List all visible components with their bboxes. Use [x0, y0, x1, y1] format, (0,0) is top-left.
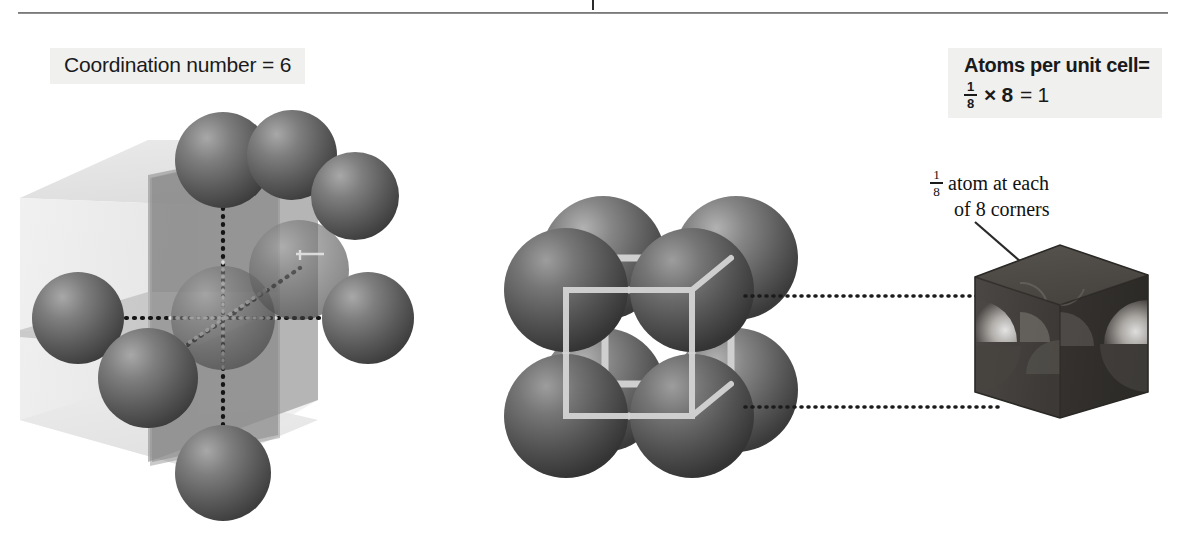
atoms-per-unit-cell-equation: 1 8 × 8 = 1 [964, 80, 1150, 110]
fraction-numerator: 1 [965, 80, 976, 94]
fraction-denominator: 8 [965, 96, 976, 110]
note-fraction-numerator: 1 [931, 168, 942, 182]
figure-canvas: Coordination number = 6 Atoms per unit c… [0, 0, 1184, 550]
atoms-per-unit-cell-label: Atoms per unit cell= 1 8 × 8 = 1 [948, 48, 1162, 118]
left-coordination-diagram [20, 110, 414, 521]
corner-note-text-line2: of 8 corners [954, 198, 1050, 221]
note-fraction-denominator: 8 [931, 184, 942, 198]
right-fraction-cube-diagram [975, 222, 1148, 418]
neighbour-atom-right [322, 272, 414, 364]
corner-note-row1: 1 8 atom at each [930, 168, 1050, 198]
corner-note-text-line1: atom at each [948, 172, 1049, 195]
lattice-atom-b [311, 152, 399, 240]
atoms-per-unit-cell-line1: Atoms per unit cell= [964, 54, 1150, 77]
coordination-number-text: Coordination number = 6 [64, 53, 291, 76]
middle-unit-cell-diagram [504, 196, 798, 478]
times-eight-text: × 8 [984, 83, 1013, 107]
neighbour-atom-bottom [175, 425, 271, 521]
one-eighth-fraction-note: 1 8 [930, 168, 943, 198]
coordination-number-label: Coordination number = 6 [50, 48, 305, 84]
note-leader-line [975, 222, 1021, 262]
one-eighth-fraction: 1 8 [964, 80, 977, 110]
neighbour-atom-front [98, 328, 198, 428]
corner-fraction-note: 1 8 atom at each of 8 corners [930, 168, 1050, 221]
equals-one-text: = 1 [1020, 83, 1049, 107]
